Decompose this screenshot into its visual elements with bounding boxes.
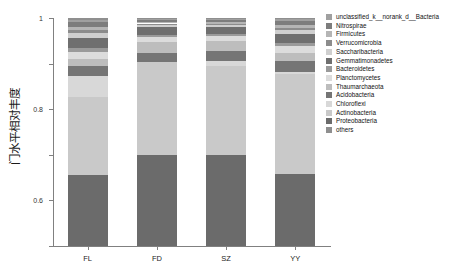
bar-segment[interactable] xyxy=(206,27,246,34)
bar-segment[interactable] xyxy=(206,25,246,27)
legend-item[interactable]: Actinobacteria xyxy=(326,109,474,117)
bar-segment[interactable] xyxy=(137,53,177,63)
bar-segment[interactable] xyxy=(206,66,246,155)
bar-segment[interactable] xyxy=(275,72,315,74)
bar-segment[interactable] xyxy=(137,35,177,37)
bar-segment[interactable] xyxy=(137,25,177,28)
bar-segment[interactable] xyxy=(206,19,246,20)
bar-segment[interactable] xyxy=(206,24,246,25)
bar-segment[interactable] xyxy=(68,66,108,76)
x-tick-mark xyxy=(226,246,227,250)
x-tick-label: FD xyxy=(152,254,162,263)
bar-segment[interactable] xyxy=(137,24,177,25)
bar-segment[interactable] xyxy=(275,25,315,28)
bar-segment[interactable] xyxy=(68,97,108,176)
legend-item[interactable]: unclassified_k__norank_d__Bacteria xyxy=(326,13,474,21)
legend-item[interactable]: Acidobacteria xyxy=(326,91,474,99)
legend-item[interactable]: Gemmatimonadetes xyxy=(326,56,474,64)
y-tick-mark: 0.4 xyxy=(49,155,53,156)
bar-segment[interactable] xyxy=(275,28,315,30)
bar-segment[interactable] xyxy=(275,34,315,43)
y-axis-title: 门水平相对丰度 xyxy=(2,0,24,252)
bar-segment[interactable] xyxy=(206,20,246,22)
bar-segment[interactable] xyxy=(137,62,177,154)
legend-swatch-icon xyxy=(326,23,332,29)
legend-item[interactable]: Nitrospirae xyxy=(326,22,474,30)
legend-item[interactable]: Thaumarchaeota xyxy=(326,83,474,91)
bar-segment[interactable] xyxy=(206,155,246,246)
bar-segment[interactable] xyxy=(275,43,315,46)
legend-item[interactable]: Firmicutes xyxy=(326,30,474,38)
legend-swatch-icon xyxy=(326,14,332,20)
bar-segment[interactable] xyxy=(137,18,177,19)
bar-segment[interactable] xyxy=(275,19,315,21)
legend-swatch-icon xyxy=(326,40,332,46)
legend-item[interactable]: Planctomycetes xyxy=(326,74,474,82)
bar-segment[interactable] xyxy=(137,37,177,42)
bar-segment[interactable] xyxy=(68,27,108,31)
legend-swatch-icon xyxy=(326,127,332,133)
bar-segment[interactable] xyxy=(206,36,246,41)
legend-item[interactable]: Chloroflexi xyxy=(326,100,474,108)
legend-label: Saccharibacteria xyxy=(336,48,383,56)
bar-segment[interactable] xyxy=(68,18,108,20)
bar-segment[interactable] xyxy=(206,22,246,23)
bar-segment[interactable] xyxy=(275,174,315,247)
legend-item[interactable]: others xyxy=(326,126,474,134)
bar-segment[interactable] xyxy=(206,61,246,66)
bar-segment[interactable] xyxy=(68,30,108,32)
bar-segment[interactable] xyxy=(206,41,246,51)
y-tick-mark: 0.8 xyxy=(49,64,53,65)
bar-segment[interactable] xyxy=(137,42,177,53)
legend-swatch-icon xyxy=(326,92,332,98)
legend-item[interactable]: Bacteroidetes xyxy=(326,65,474,73)
bar-segment[interactable] xyxy=(206,51,246,61)
bar-segment[interactable] xyxy=(68,59,108,66)
bar-segment[interactable] xyxy=(137,22,177,24)
bar-fd[interactable] xyxy=(137,18,177,246)
bar-segment[interactable] xyxy=(137,27,177,35)
legend-swatch-icon xyxy=(326,110,332,116)
bar-segment[interactable] xyxy=(68,175,108,246)
legend-label: Bacteroidetes xyxy=(336,65,375,73)
bar-segment[interactable] xyxy=(68,22,108,27)
legend-swatch-icon xyxy=(326,84,332,90)
bar-sz[interactable] xyxy=(206,18,246,246)
stacked-bar-chart-figure: 门水平相对丰度 00.20.40.60.81 FLFDSZYY unclassi… xyxy=(0,0,476,280)
x-tick-label: SZ xyxy=(221,254,231,263)
bar-segment[interactable] xyxy=(206,34,246,36)
bar-segment[interactable] xyxy=(137,20,177,22)
bar-segment[interactable] xyxy=(137,19,177,20)
bar-segment[interactable] xyxy=(275,53,315,61)
bar-segment[interactable] xyxy=(275,30,315,35)
legend-item[interactable]: Proteobacteria xyxy=(326,117,474,125)
bar-segment[interactable] xyxy=(68,38,108,48)
bar-segment[interactable] xyxy=(275,61,315,72)
bar-segment[interactable] xyxy=(68,48,108,52)
bar-segment[interactable] xyxy=(68,20,108,22)
legend-label: Planctomycetes xyxy=(336,74,380,82)
y-tick-label: 0.8 xyxy=(33,106,43,113)
bar-segment[interactable] xyxy=(275,18,315,19)
bar-segment[interactable] xyxy=(68,52,108,59)
bar-segment[interactable] xyxy=(68,76,108,97)
bar-segment[interactable] xyxy=(275,46,315,53)
legend-label: Acidobacteria xyxy=(336,91,374,99)
legend-swatch-icon xyxy=(326,31,332,37)
y-tick-mark: 0 xyxy=(49,246,53,247)
bar-segment[interactable] xyxy=(275,74,315,173)
bar-segment[interactable] xyxy=(275,21,315,25)
x-tick-mark xyxy=(88,246,89,250)
bar-yy[interactable] xyxy=(275,18,315,246)
bar-segment[interactable] xyxy=(206,18,246,19)
legend-label: others xyxy=(336,126,354,134)
x-tick-label: FL xyxy=(83,254,92,263)
legend-item[interactable]: Verrucomicrobia xyxy=(326,39,474,47)
legend-item[interactable]: Saccharibacteria xyxy=(326,48,474,56)
y-axis-line xyxy=(53,18,54,247)
bar-segment[interactable] xyxy=(137,155,177,246)
legend-swatch-icon xyxy=(326,101,332,107)
legend-swatch-icon xyxy=(326,58,332,64)
bar-segment[interactable] xyxy=(68,33,108,38)
bar-fl[interactable] xyxy=(68,18,108,246)
